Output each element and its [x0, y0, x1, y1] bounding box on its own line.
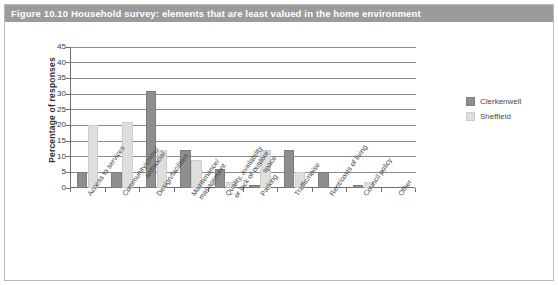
figure-caption-text: Figure 10.10 Household survey: elements …	[11, 7, 421, 20]
y-tick-label-20: 20	[57, 121, 66, 129]
legend-item-sheffield[interactable]: Sheffield	[466, 111, 548, 124]
legend-item-clerkenwell[interactable]: Clerkenwell	[466, 96, 548, 109]
y-axis-title-wrap: Percentage of responses	[18, 47, 32, 188]
bar-clerkenwell-6	[284, 150, 295, 188]
y-tick-label-40: 40	[57, 59, 66, 67]
bar-clerkenwell-1	[111, 172, 122, 188]
bar-group	[277, 47, 312, 188]
y-tick-mark-20	[66, 125, 70, 126]
x-axis-category-labels: Access to servicesCommunity/crime/antiso…	[0, 188, 558, 268]
y-axis-tick-labels: 051015202530354045	[40, 47, 66, 188]
y-tick-mark-15	[66, 141, 70, 142]
chart-legend: ClerkenwellSheffield	[466, 96, 548, 126]
y-tick-label-30: 30	[57, 90, 66, 98]
y-tick-label-10: 10	[57, 153, 66, 161]
legend-label: Sheffield	[480, 111, 511, 122]
y-tick-label-15: 15	[57, 137, 66, 145]
y-tick-mark-35	[66, 78, 70, 79]
y-tick-label-45: 45	[57, 43, 66, 51]
bar-clerkenwell-7	[318, 172, 329, 188]
y-tick-mark-5	[66, 172, 70, 173]
y-tick-mark-45	[66, 47, 70, 48]
y-tick-label-35: 35	[57, 74, 66, 82]
y-tick-mark-30	[66, 94, 70, 95]
legend-swatch-sheffield	[466, 112, 475, 121]
figure-caption-bar: Figure 10.10 Household survey: elements …	[5, 5, 553, 22]
legend-label: Clerkenwell	[480, 96, 521, 107]
y-tick-label-25: 25	[57, 106, 66, 114]
y-tick-mark-0	[66, 188, 70, 189]
y-tick-mark-10	[66, 156, 70, 157]
legend-swatch-clerkenwell	[466, 97, 475, 106]
y-tick-mark-40	[66, 62, 70, 63]
bar-group	[70, 47, 105, 188]
bar-clerkenwell-0	[77, 172, 88, 188]
figure-container: Figure 10.10 Household survey: elements …	[0, 0, 558, 285]
y-tick-mark-25	[66, 109, 70, 110]
